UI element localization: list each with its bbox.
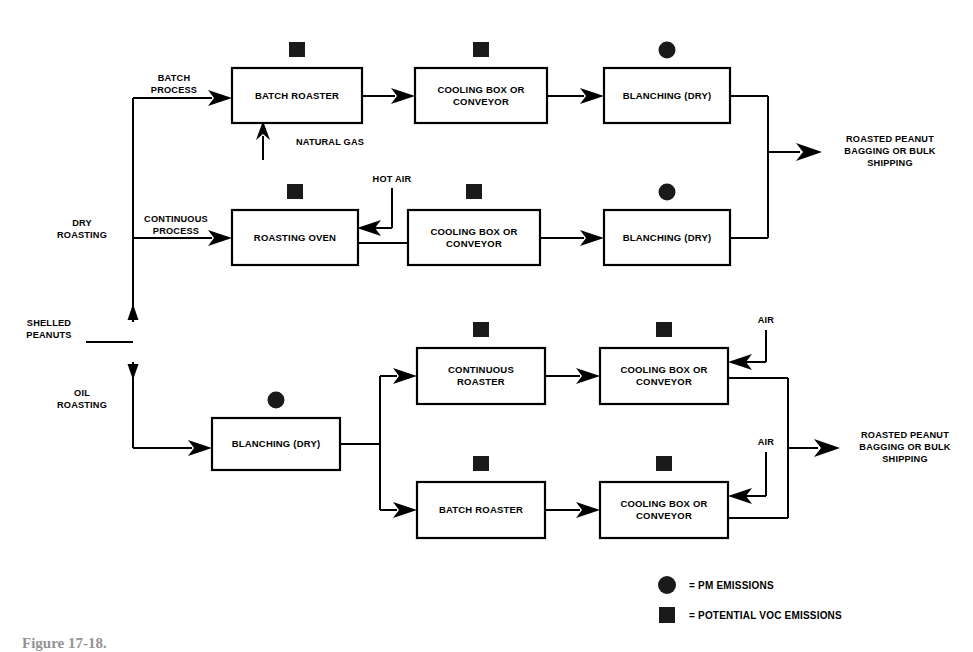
process-box-blanching-oil[interactable]: BLANCHING (DRY) [212,392,340,471]
figure-caption: Figure 17-18. [22,635,107,652]
voc-emission-marker-icon [473,42,489,57]
process-box-blanching-dry-1[interactable]: BLANCHING (DRY) [604,42,730,124]
process-box-cooling-box-dry-1[interactable]: COOLING BOX ORCONVEYOR [415,42,547,123]
box-label: BATCH ROASTER [255,89,339,100]
box-label: BATCH ROASTER [439,504,523,515]
label-air-bottom: AIR [758,437,775,447]
label-continuous-process-text: CONTINUOUSPROCESS [144,214,208,236]
process-box-cooling-box-oil-1[interactable]: COOLING BOX ORCONVEYOR [600,322,728,404]
pm-emission-marker-icon [658,576,676,594]
voc-emission-marker-icon [473,456,489,471]
arrowhead-dry-roasting [128,304,139,320]
flow-label-layer: SHELLEDPEANUTS DRYROASTING OILROASTING B… [26,73,950,464]
box-label: BLANCHING (DRY) [623,89,712,100]
label-oil-output-text: ROASTED PEANUTBAGGING OR BULKSHIPPING [859,430,950,464]
label-dry-roasting: DRYROASTING [57,218,107,240]
label-oil-roasting-text: OILROASTING [57,388,107,410]
process-box-cooling-box-dry-2[interactable]: COOLING BOX ORCONVEYOR [408,184,540,265]
label-shelled-peanuts: SHELLEDPEANUTS [26,318,71,340]
pm-emission-marker-icon [659,42,676,59]
process-box-continuous-roaster[interactable]: CONTINUOUSROASTER [417,322,545,404]
process-box-blanching-dry-2[interactable]: BLANCHING (DRY) [604,184,730,266]
process-box-batch-roaster-dry[interactable]: BATCH ROASTER [232,42,362,123]
legend-item-label: = POTENTIAL VOC EMISSIONS [689,610,842,621]
voc-emission-marker-icon [287,184,303,199]
label-oil-output: ROASTED PEANUTBAGGING OR BULKSHIPPING [859,430,950,464]
legend-item-label: = PM EMISSIONS [689,580,774,591]
label-natural-gas: NATURAL GAS [296,137,364,147]
arrowhead-oil-roasting [128,364,139,380]
label-shelled-peanuts-line1: SHELLEDPEANUTS [26,318,71,340]
label-batch-process-text: BATCHPROCESS [151,73,197,95]
voc-emission-marker-icon [656,456,672,471]
box-label: BLANCHING (DRY) [623,231,712,242]
legend-item-voc: = POTENTIAL VOC EMISSIONS [659,607,842,623]
label-batch-process: BATCHPROCESS [151,73,197,95]
process-box-cooling-box-oil-2[interactable]: COOLING BOX ORCONVEYOR [600,456,728,538]
process-box-batch-roaster-oil[interactable]: BATCH ROASTER [417,456,545,538]
label-continuous-process: CONTINUOUSPROCESS [144,214,208,236]
box-label: BLANCHING (DRY) [232,438,321,449]
pm-emission-marker-icon [659,184,676,201]
pm-emission-marker-icon [268,392,285,409]
voc-emission-marker-icon [659,607,675,623]
voc-emission-marker-icon [656,322,672,337]
voc-emission-marker-icon [473,322,489,337]
label-oil-roasting: OILROASTING [57,388,107,410]
label-air-top: AIR [758,315,775,325]
voc-emission-marker-icon [289,42,305,57]
label-hot-air: HOT AIR [373,174,412,184]
label-dry-output: ROASTED PEANUTBAGGING OR BULKSHIPPING [844,134,935,168]
label-dry-output-text: ROASTED PEANUTBAGGING OR BULKSHIPPING [844,134,935,168]
process-box-roasting-oven[interactable]: ROASTING OVEN [232,184,358,265]
legend-item-pm: = PM EMISSIONS [658,576,774,594]
voc-emission-marker-icon [466,184,482,199]
connector-layer [86,88,840,518]
label-dry-roasting-text: DRYROASTING [57,218,107,240]
process-box-layer: BATCH ROASTERCOOLING BOX ORCONVEYORBLANC… [212,42,730,539]
box-label: ROASTING OVEN [254,231,336,242]
box-label: CONTINUOUSROASTER [448,364,514,387]
legend: = PM EMISSIONS= POTENTIAL VOC EMISSIONS [658,576,842,623]
